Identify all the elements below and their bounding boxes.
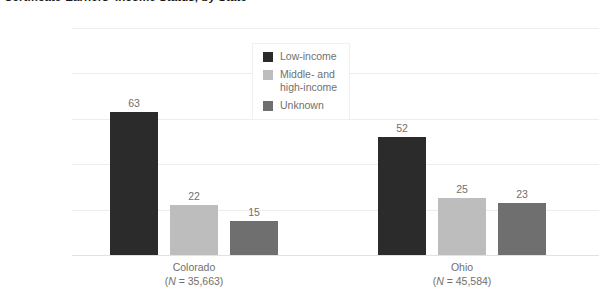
bar-value-ohio-unknown: 23 <box>516 188 528 200</box>
n-symbol-ohio: N <box>436 275 444 287</box>
bar-value-ohio-low-income: 52 <box>396 122 408 134</box>
x-group-n-ohio: (N = 45,584) <box>378 274 546 288</box>
x-group-name-ohio: Ohio <box>451 261 473 273</box>
legend-label-low-income: Low-income <box>280 50 337 63</box>
legend-label-middle-high-income: Middle- and high-income <box>280 68 337 94</box>
bar-ohio-low-income: 52 <box>378 137 426 255</box>
n-symbol-colorado: N <box>168 275 176 287</box>
bar-colorado-unknown: 15 <box>230 221 278 255</box>
chart-container: Certificate-Earners' Income Status, by S… <box>0 0 603 297</box>
legend-item-middle-high-income[interactable]: Middle- and high-income <box>263 68 337 94</box>
bar-value-colorado-unknown: 15 <box>248 206 260 218</box>
gridline-100 <box>72 28 599 29</box>
bar-value-colorado-low-income: 63 <box>128 97 140 109</box>
legend-swatch-low-income-icon <box>263 52 273 62</box>
bar-ohio-middle-high-income: 25 <box>438 198 486 255</box>
x-group-name-colorado: Colorado <box>173 261 216 273</box>
legend-swatch-unknown-icon <box>263 101 273 111</box>
x-group-label-ohio: Ohio (N = 45,584) <box>378 260 546 288</box>
legend-item-unknown[interactable]: Unknown <box>263 99 337 112</box>
chart-legend: Low-income Middle- and high-income Unkno… <box>252 43 350 120</box>
bar-value-colorado-middle-high-income: 22 <box>188 190 200 202</box>
x-group-label-colorado: Colorado (N = 35,663) <box>110 260 278 288</box>
legend-label-unknown: Unknown <box>280 99 324 112</box>
bar-value-ohio-middle-high-income: 25 <box>456 183 468 195</box>
legend-swatch-middle-high-income-icon <box>263 70 273 80</box>
gridline-baseline-0 <box>72 255 599 256</box>
legend-item-low-income[interactable]: Low-income <box>263 50 337 63</box>
chart-title: Certificate-Earners' Income Status, by S… <box>4 0 247 3</box>
bar-colorado-low-income: 63 <box>110 112 158 255</box>
bar-colorado-middle-high-income: 22 <box>170 205 218 255</box>
x-group-n-colorado: (N = 35,663) <box>110 274 278 288</box>
bar-ohio-unknown: 23 <box>498 203 546 255</box>
